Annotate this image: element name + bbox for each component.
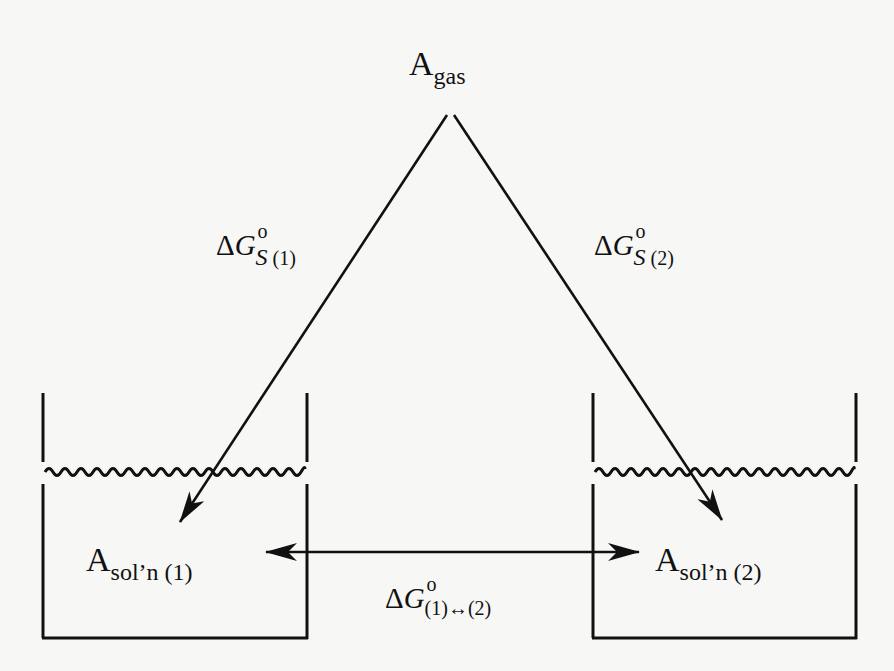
gibbs-symbol: G: [404, 582, 425, 614]
gibbs-symbol: G: [235, 229, 256, 261]
species-solution-2-base: A: [655, 541, 680, 578]
species-solution-1-subscript: sol’n (1): [111, 559, 193, 585]
solvation-subscript: S: [634, 244, 646, 270]
species-solution-1-label: Asol’n (1): [86, 543, 193, 584]
standard-state-superscript: o: [258, 221, 268, 241]
solvation-subscript: S: [256, 244, 268, 270]
transfer-subscript: (1)↔(2): [425, 598, 492, 618]
solvation-energy-1-label: ΔGoS (1): [216, 231, 296, 270]
arrow-gas-to-solution-2: [454, 115, 722, 520]
species-solution-1-base: A: [86, 541, 111, 578]
solvent-index: (1): [268, 247, 296, 269]
gibbs-symbol: G: [613, 229, 634, 261]
standard-state-superscript: o: [427, 574, 437, 594]
species-solution-2-subscript: sol’n (2): [680, 559, 762, 585]
standard-state-superscript: o: [636, 221, 646, 241]
delta-symbol: Δ: [385, 582, 404, 614]
transfer-energy-label: ΔGo(1)↔(2): [385, 584, 491, 620]
species-gas-subscript: gas: [434, 63, 466, 89]
liquid-surface-1: [45, 468, 305, 476]
delta-symbol: Δ: [594, 229, 613, 261]
species-gas-label: Agas: [409, 47, 466, 88]
container-solution-2: [592, 393, 857, 639]
container-solution-1: [42, 393, 308, 639]
species-solution-2-label: Asol’n (2): [655, 543, 762, 584]
solvent-index: (2): [646, 247, 674, 269]
liquid-surface-2: [595, 468, 854, 476]
species-gas-base: A: [409, 45, 434, 82]
arrow-gas-to-solution-1: [180, 115, 447, 522]
delta-symbol: Δ: [216, 229, 235, 261]
solvation-energy-2-label: ΔGoS (2): [594, 231, 674, 270]
